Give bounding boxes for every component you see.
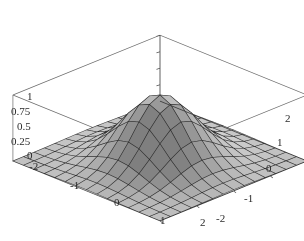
z-tick-label: 0.75 bbox=[11, 106, 30, 117]
x_front_left-tick-label: 0 bbox=[114, 197, 120, 208]
y_front_right-tick-label: -1 bbox=[244, 193, 253, 204]
z-tick-label: 0.25 bbox=[11, 136, 30, 147]
surface-plot-canvas bbox=[0, 0, 304, 241]
surface-plot-figure: 10.750.50.250-2-1012-2-1012 bbox=[0, 0, 304, 241]
x_front_left-tick-label: 2 bbox=[200, 217, 206, 228]
y_front_right-tick-label: 0 bbox=[266, 163, 272, 174]
x_front_left-tick-label: -2 bbox=[29, 161, 38, 172]
z-tick-label: 0.5 bbox=[17, 121, 31, 132]
y_front_right-tick-label: -2 bbox=[216, 213, 225, 224]
x_front_left-tick-label: 1 bbox=[160, 215, 166, 226]
z-tick-label: 1 bbox=[27, 91, 33, 102]
x_front_left-tick-label: -1 bbox=[70, 180, 79, 191]
y_front_right-tick-label: 1 bbox=[277, 137, 283, 148]
y_front_right-tick-label: 2 bbox=[285, 113, 291, 124]
